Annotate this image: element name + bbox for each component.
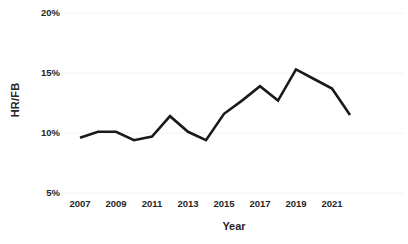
x-axis-tick-labels: 20072009201120132015201720192021 — [0, 198, 408, 214]
gridlines — [64, 13, 404, 193]
x-axis-tick-label: 2007 — [69, 198, 90, 209]
x-axis-tick-label: 2017 — [249, 198, 270, 209]
y-axis-tick-label: 5% — [24, 188, 60, 198]
x-axis-tick-label: 2011 — [142, 198, 163, 209]
x-axis-tick-label: 2009 — [105, 198, 126, 209]
x-axis-tick-label: 2015 — [213, 198, 234, 209]
x-axis-title: Year — [64, 220, 404, 232]
plot-area — [64, 0, 404, 200]
data-series-line — [80, 69, 350, 140]
y-axis-title-label: HR/FB — [9, 83, 21, 118]
line-chart: HR/FB 20%15%10%5% 2007200920112013201520… — [0, 0, 408, 244]
x-axis-tick-label: 2013 — [177, 198, 198, 209]
x-axis-tick-label: 2021 — [321, 198, 342, 209]
y-axis-tick-label: 10% — [24, 128, 60, 138]
chart-plot-svg — [64, 0, 404, 200]
y-axis-tick-label: 20% — [24, 8, 60, 18]
x-axis-tick-label: 2019 — [285, 198, 306, 209]
y-axis-tick-label: 15% — [24, 68, 60, 78]
